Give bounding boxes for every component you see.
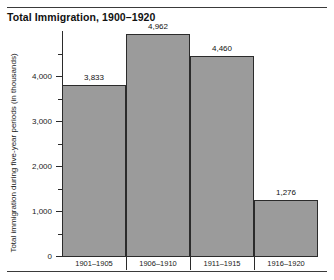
bar (190, 56, 254, 257)
chart-figure: Total Immigration, 1900–1920 Total immig… (0, 0, 334, 280)
y-tick-label: 0 (48, 252, 52, 261)
x-axis-category-labels: 1901–19051906–19101911–19151916–1920 (62, 257, 318, 270)
x-axis-category-3: 1911–1915 (190, 257, 254, 270)
bottom-divider-rule (7, 271, 327, 272)
y-axis-label-container: Total immigration during five-year perio… (7, 48, 21, 258)
top-divider-rule (7, 7, 327, 8)
x-axis-category-2: 1906–1910 (126, 257, 190, 270)
x-axis-category-4: 1916–1920 (254, 257, 318, 270)
bar (62, 85, 126, 257)
bar-value-label: 4,962 (148, 22, 168, 31)
y-tick-label: 1,000 (32, 207, 52, 216)
bar-value-label: 3,833 (84, 73, 104, 82)
chart-title: Total Immigration, 1900–1920 (7, 11, 156, 23)
bar (126, 34, 190, 257)
y-tick-label: 4,000 (32, 72, 52, 81)
y-tick-label: 3,000 (32, 117, 52, 126)
bar (254, 200, 318, 257)
bar-series: 3,8334,9624,4601,276 (62, 31, 318, 257)
y-axis-label: Total immigration during five-year perio… (10, 53, 18, 252)
x-axis-category-1: 1901–1905 (62, 257, 126, 270)
bar-value-label: 1,276 (276, 188, 296, 197)
bar-value-label: 4,460 (212, 44, 232, 53)
y-tick-label: 2,000 (32, 162, 52, 171)
